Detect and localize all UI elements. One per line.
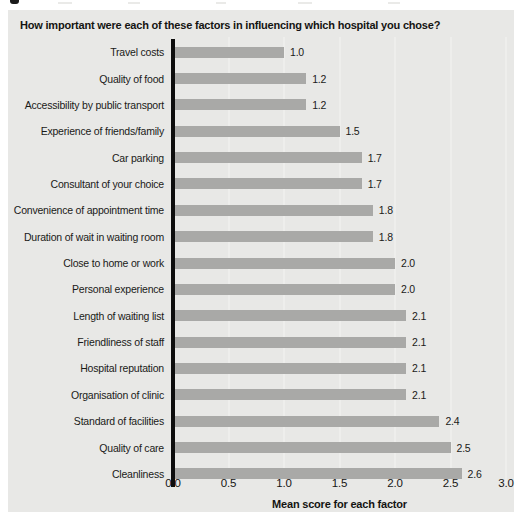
bar-cell: 2.4 [173, 415, 506, 427]
bar-cell: 1.8 [173, 204, 506, 216]
bar [173, 73, 306, 84]
category-label: Close to home or work [8, 257, 173, 269]
bar-row: Personal experience2.0 [8, 276, 514, 302]
figure-page: How important were each of these factors… [0, 0, 521, 512]
bar-value-label: 1.5 [346, 125, 360, 137]
bar-cell: 2.0 [173, 257, 506, 269]
bar-value-label: 2.1 [412, 336, 426, 348]
category-label: Accessibility by public transport [8, 99, 173, 111]
bar-row: Standard of facilities2.4 [8, 408, 514, 434]
bar [173, 99, 306, 110]
bar-value-label: 1.8 [379, 204, 393, 216]
bar-cell: 2.0 [173, 283, 506, 295]
bar [173, 389, 406, 400]
bar-cell: 2.1 [173, 336, 506, 348]
bar-row: Travel costs1.0 [8, 39, 514, 65]
category-label: Length of waiting list [8, 310, 173, 322]
category-label: Organisation of clinic [8, 389, 173, 401]
bar-value-label: 2.1 [412, 389, 426, 401]
bar [173, 416, 439, 427]
bar [173, 231, 373, 242]
chart-title: How important were each of these factors… [20, 19, 504, 31]
bar-row: Close to home or work2.0 [8, 250, 514, 276]
bar [173, 337, 406, 348]
bar-row: Accessibility by public transport1.2 [8, 92, 514, 118]
bar-value-label: 2.0 [401, 283, 415, 295]
bar-row: Consultant of your choice1.7 [8, 171, 514, 197]
chart-panel: How important were each of these factors… [8, 10, 514, 512]
cropped-caption-fragment [10, 0, 19, 4]
category-label: Cleanliness [8, 468, 173, 480]
bar-cell: 2.1 [173, 310, 506, 322]
bar-value-label: 2.5 [457, 442, 471, 454]
bar-value-label: 1.2 [312, 73, 326, 85]
bar [173, 363, 406, 374]
bar [173, 258, 395, 269]
bar [173, 126, 340, 137]
category-label: Hospital reputation [8, 362, 173, 374]
category-label: Personal experience [8, 283, 173, 295]
category-label: Standard of facilities [8, 415, 173, 427]
bar-value-label: 1.7 [368, 178, 382, 190]
category-label: Consultant of your choice [8, 178, 173, 190]
bar-value-label: 2.1 [412, 362, 426, 374]
category-label: Duration of wait in waiting room [8, 231, 173, 243]
bar-value-label: 1.0 [290, 46, 304, 58]
bar-row: Organisation of clinic2.1 [8, 382, 514, 408]
bar-row: Car parking1.7 [8, 144, 514, 170]
bar [173, 152, 362, 163]
bar [173, 205, 373, 216]
bar-cell: 1.2 [173, 73, 506, 85]
zero-axis-line [171, 39, 175, 487]
category-label: Travel costs [8, 46, 173, 58]
bar-cell: 2.1 [173, 389, 506, 401]
bar-value-label: 2.1 [412, 310, 426, 322]
bar-row: Duration of wait in waiting room1.8 [8, 224, 514, 250]
bar-cell: 1.0 [173, 46, 506, 58]
bar-cell: 1.7 [173, 178, 506, 190]
cropped-caption-mark [388, 2, 400, 4]
bar [173, 284, 395, 295]
bar-value-label: 2.6 [468, 468, 482, 480]
category-label: Car parking [8, 152, 173, 164]
bar-row: Friendliness of staff2.1 [8, 329, 514, 355]
cropped-caption-mark [128, 2, 140, 4]
bar-cell: 2.5 [173, 442, 506, 454]
bar-row: Experience of friends/family1.5 [8, 118, 514, 144]
bar-row: Hospital reputation2.1 [8, 355, 514, 381]
bar [173, 178, 362, 189]
bar-cell: 1.8 [173, 231, 506, 243]
bar-row: Length of waiting list2.1 [8, 303, 514, 329]
bar-row: Quality of food1.2 [8, 65, 514, 91]
x-axis-label: Mean score for each factor [272, 498, 407, 510]
bar-value-label: 1.8 [379, 231, 393, 243]
bar [173, 468, 462, 479]
category-label: Quality of care [8, 442, 173, 454]
bar [173, 47, 284, 58]
bar-row: Cleanliness2.6 [8, 461, 514, 487]
bar-value-label: 1.7 [368, 152, 382, 164]
bar-cell: 2.1 [173, 362, 506, 374]
cropped-caption-mark [216, 2, 226, 4]
x-axis-label-row: Mean score for each factor [173, 494, 506, 512]
bar-row: Quality of care2.5 [8, 434, 514, 460]
category-label: Experience of friends/family [8, 125, 173, 137]
bar-value-label: 2.0 [401, 257, 415, 269]
bar-cell: 2.6 [173, 468, 506, 480]
category-label: Quality of food [8, 73, 173, 85]
bar [173, 310, 406, 321]
bar-value-label: 1.2 [312, 99, 326, 111]
cropped-caption-mark [298, 2, 312, 4]
bar-cell: 1.2 [173, 99, 506, 111]
bar-chart: Travel costs1.0Quality of food1.2Accessi… [8, 37, 514, 487]
bar-value-label: 2.4 [445, 415, 459, 427]
bar-cell: 1.7 [173, 152, 506, 164]
bar-cell: 1.5 [173, 125, 506, 137]
cropped-caption-mark [58, 2, 72, 4]
bar [173, 442, 451, 453]
bar-row: Convenience of appointment time1.8 [8, 197, 514, 223]
category-label: Convenience of appointment time [8, 204, 173, 216]
bar-rows: Travel costs1.0Quality of food1.2Accessi… [8, 39, 514, 487]
category-label: Friendliness of staff [8, 336, 173, 348]
